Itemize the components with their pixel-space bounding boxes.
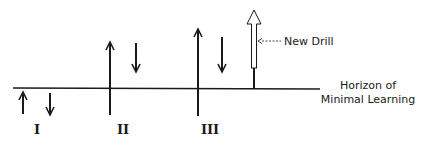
- horizon-label-line1: Horizon of: [340, 79, 397, 92]
- down-arrow-icon: [46, 93, 54, 115]
- horizon-label-line2: Minimal Learning: [321, 93, 415, 106]
- learning-horizon-diagram: New Drill Horizon of Minimal Learning I …: [0, 0, 426, 145]
- down-arrow-icon: [218, 37, 226, 72]
- group-ii: [106, 42, 140, 115]
- up-arrow-icon: [19, 92, 27, 114]
- group-label-i: I: [34, 122, 40, 137]
- group-iii: [194, 29, 226, 116]
- group-i: [19, 92, 54, 115]
- group-label-ii: II: [117, 122, 129, 137]
- pointer-arrow-icon: [258, 39, 281, 44]
- horizon-line: [13, 88, 320, 89]
- down-arrow-icon: [132, 43, 140, 72]
- group-label-iii: III: [201, 122, 219, 137]
- new-drill-arrow-icon: [247, 10, 261, 89]
- new-drill-label: New Drill: [284, 35, 334, 48]
- up-arrow-icon: [194, 29, 202, 116]
- up-arrow-icon: [106, 42, 114, 115]
